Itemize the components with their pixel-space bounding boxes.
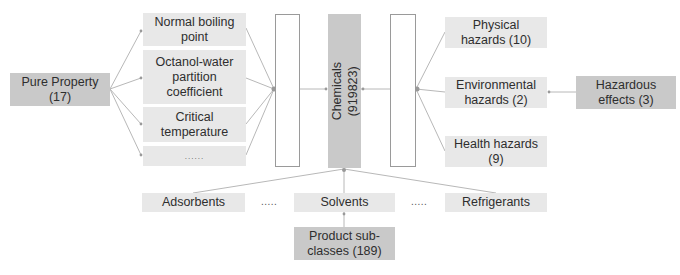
chemicals-label: Chemicals (919823): [329, 62, 361, 120]
octanol-water-partition-node: Octanol-water partition coefficient: [143, 50, 246, 104]
physical-hazards-node: Physical hazards (10): [445, 17, 547, 48]
node-label: Octanol-water partition coefficient: [147, 55, 242, 100]
product-subclasses-label: Product sub-: [309, 229, 380, 244]
pure-property-count: (17): [49, 90, 71, 105]
ellipsis-label: ......: [185, 149, 204, 164]
node-label: Solvents: [321, 195, 369, 210]
node-label: Physical hazards (10): [449, 18, 543, 48]
node-label: Critical temperature: [147, 110, 242, 140]
more-properties-node: ......: [143, 146, 246, 166]
environmental-hazards-node: Environmental hazards (2): [445, 77, 547, 108]
right-aggregator-box: [390, 14, 416, 167]
node-label: Health hazards (9): [449, 137, 543, 167]
hazardous-effects-count: effects (3): [598, 93, 653, 108]
refrigerants-node: Refrigerants: [445, 193, 547, 212]
hazardous-effects-label: Hazardous: [596, 78, 656, 93]
node-label: Environmental hazards (2): [449, 78, 543, 108]
chemicals-title: Chemicals: [329, 62, 345, 120]
product-subclasses-node: Product sub- classes (189): [294, 227, 395, 260]
solvents-node: Solvents: [294, 193, 395, 212]
left-aggregator-box: [275, 14, 300, 167]
chemicals-count: (919823): [345, 66, 361, 116]
bottom-ellipsis-left: .....: [261, 196, 277, 207]
critical-temperature-node: Critical temperature: [143, 107, 246, 142]
hazardous-effects-node: Hazardous effects (3): [576, 76, 676, 109]
normal-boiling-point-node: Normal boiling point: [143, 13, 246, 46]
health-hazards-node: Health hazards (9): [445, 136, 547, 167]
node-label: Refrigerants: [462, 195, 530, 210]
pure-property-label: Pure Property: [21, 75, 98, 90]
product-subclasses-count: classes (189): [307, 244, 381, 259]
adsorbents-node: Adsorbents: [142, 193, 245, 212]
node-label: Normal boiling point: [147, 15, 242, 45]
pure-property-node: Pure Property (17): [10, 73, 110, 106]
chemicals-node: Chemicals (919823): [328, 14, 361, 168]
node-label: Adsorbents: [162, 195, 225, 210]
bottom-ellipsis-right: .....: [411, 196, 427, 207]
